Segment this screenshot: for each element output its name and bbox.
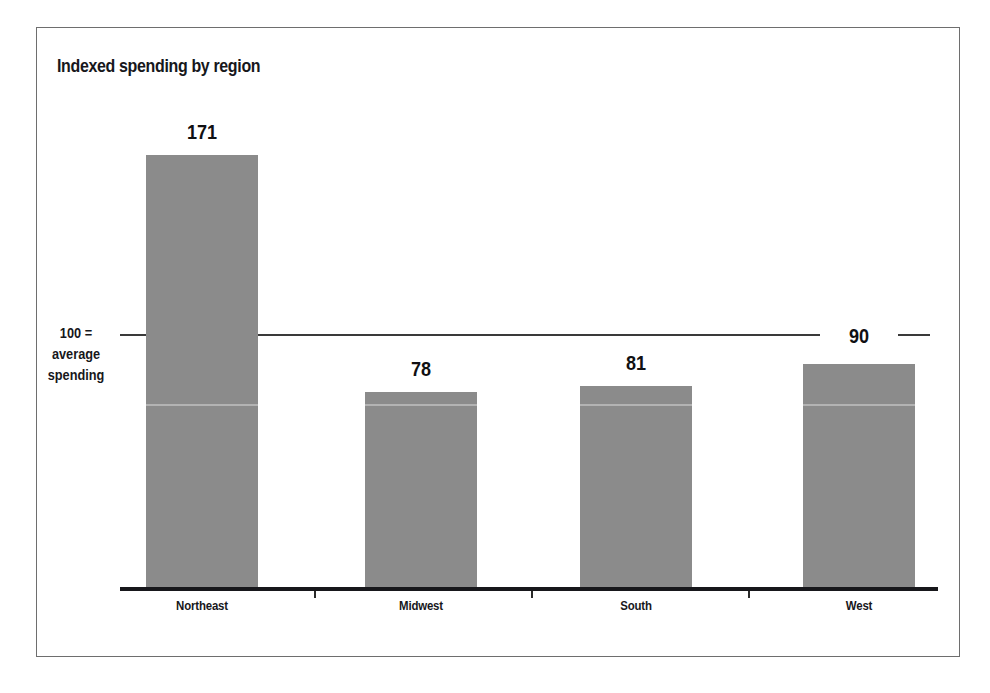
bar-streak-south: [580, 404, 692, 406]
category-label-midwest: Midwest: [351, 598, 492, 613]
bar-west: [803, 364, 915, 587]
category-axis-line: [120, 587, 938, 591]
axis-tick-1: [314, 591, 316, 598]
axis-tick-2: [531, 591, 533, 598]
reference-line-label-line-2: average: [35, 343, 117, 364]
bar-northeast: [146, 155, 258, 587]
category-label-west: West: [789, 598, 930, 613]
bar-value-midwest: 78: [373, 357, 469, 381]
reference-line-label-line-3: spending: [35, 364, 117, 385]
bar-value-northeast: 171: [154, 120, 250, 144]
chart-figure: Indexed spending by region 100 = average…: [0, 0, 990, 693]
category-label-northeast: Northeast: [132, 598, 273, 613]
plot-area: 100 = average spending 171 78 81 90 Nort…: [0, 0, 990, 693]
reference-line-label: 100 = average spending: [35, 322, 117, 385]
bar-value-west: 90: [811, 324, 907, 348]
axis-tick-3: [748, 591, 750, 598]
bar-south: [580, 386, 692, 587]
reference-line-label-line-1: 100 =: [35, 322, 117, 343]
bar-streak-west: [803, 404, 915, 406]
bar-streak-midwest: [365, 404, 477, 406]
bar-streak-northeast: [146, 404, 258, 406]
category-label-south: South: [566, 598, 707, 613]
bar-midwest: [365, 392, 477, 587]
bar-value-south: 81: [588, 351, 684, 375]
